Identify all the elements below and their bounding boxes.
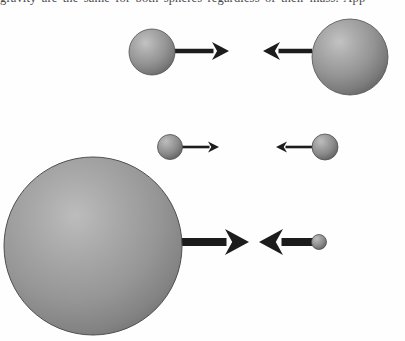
row2-left-arrow-shaft [286,146,315,149]
row3-right-arrow-head [225,229,249,255]
row2-right-sphere[interactable] [312,134,338,160]
figure-root: gravity are the same for both spheres re… [0,0,405,341]
row1-left-arrow[interactable] [263,42,312,60]
row3-right-arrow[interactable] [178,229,249,255]
row3-right-arrow-shaft [178,238,227,246]
row3-left-arrow-shaft [282,238,314,246]
row2-right-arrow-shaft [181,146,210,149]
row1-left-arrow-shaft [279,49,313,54]
row3-left-sphere[interactable] [4,157,182,335]
spheres-diagram [0,0,405,341]
row1-right-sphere[interactable] [312,19,388,95]
row2-left-arrow[interactable] [276,142,314,153]
row1-right-arrow-head [212,42,229,60]
row2-right-arrow[interactable] [181,142,219,153]
row3-left-arrow[interactable] [259,229,313,255]
row3-left-arrow-head [259,229,283,255]
row2-right-arrow-head [208,142,219,153]
row-3 [4,157,327,335]
row3-right-sphere[interactable] [312,235,327,250]
row-2 [158,134,339,160]
row2-left-sphere[interactable] [158,135,183,160]
row-1 [129,19,388,95]
row1-right-arrow[interactable] [175,42,229,60]
row1-left-arrow-head [263,42,280,60]
row1-left-sphere[interactable] [129,29,175,75]
row2-left-arrow-head [276,142,287,153]
row1-right-arrow-shaft [175,49,214,54]
